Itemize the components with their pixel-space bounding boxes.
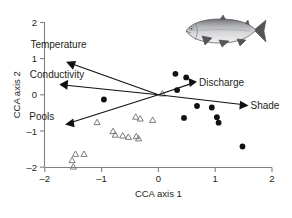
data-point-circle bbox=[240, 144, 246, 150]
vector-conductivity-arrowhead bbox=[59, 80, 68, 90]
data-point-triangle bbox=[112, 132, 118, 137]
vector-discharge-line bbox=[158, 83, 192, 95]
data-point-triangle bbox=[120, 133, 126, 138]
data-point-triangle bbox=[69, 157, 75, 162]
vector-label-conductivity: Conductivity bbox=[30, 69, 84, 80]
vector-label-pools: Pools bbox=[29, 111, 54, 122]
data-point-triangle bbox=[94, 119, 100, 124]
cca-ordination-figure: 2 1 0 –1 –2 –2 –1 0 1 2 CCA axis 1 CCA a… bbox=[0, 0, 292, 218]
x-tick-label-neg2: –2 bbox=[40, 173, 51, 184]
x-tick-label-0: 0 bbox=[156, 173, 161, 184]
vector-shade bbox=[158, 95, 248, 110]
x-tick-label-1: 1 bbox=[213, 173, 218, 184]
data-point-circle bbox=[181, 115, 187, 121]
plot-canvas: 2 1 0 –1 –2 –2 –1 0 1 2 CCA axis 1 CCA a… bbox=[0, 0, 292, 218]
y-tick-label-0: 0 bbox=[32, 89, 37, 100]
vector-label-discharge: Discharge bbox=[199, 77, 244, 88]
trout-illustration bbox=[186, 15, 266, 47]
y-tick-label-neg1: –1 bbox=[26, 126, 37, 137]
data-point-circle bbox=[216, 120, 222, 126]
data-point-circle bbox=[214, 114, 220, 120]
y-tick-label-2: 2 bbox=[32, 17, 37, 28]
vector-pools-line bbox=[69, 95, 158, 123]
x-axis-ticks bbox=[45, 168, 272, 173]
data-point-triangle bbox=[125, 134, 131, 139]
vector-shade-line bbox=[158, 95, 244, 105]
data-point-circle bbox=[194, 103, 200, 109]
y-axis-title: CCA axis 2 bbox=[11, 71, 22, 118]
y-tick-label-1: 1 bbox=[32, 53, 37, 64]
vector-pools bbox=[65, 95, 158, 128]
data-point-circle bbox=[173, 71, 179, 77]
vector-label-shade: Shade bbox=[251, 100, 280, 111]
vector-shade-arrowhead bbox=[239, 101, 248, 110]
x-axis-tick-labels: –2 –1 0 1 2 bbox=[40, 173, 275, 184]
data-point-triangle bbox=[150, 117, 156, 122]
data-point-circle bbox=[209, 105, 215, 111]
y-tick-label-neg2: –2 bbox=[26, 162, 37, 173]
data-point-circle bbox=[101, 97, 107, 103]
open-triangle-series bbox=[69, 91, 166, 170]
vector-discharge-arrowhead bbox=[189, 78, 198, 87]
data-point-triangle bbox=[81, 151, 87, 156]
x-tick-label-neg1: –1 bbox=[96, 173, 107, 184]
data-point-triangle bbox=[72, 151, 78, 156]
data-point-circle bbox=[183, 75, 189, 81]
data-point-triangle bbox=[133, 114, 139, 119]
vector-label-temperature: Temperature bbox=[30, 39, 87, 50]
x-tick-label-2: 2 bbox=[269, 173, 274, 184]
data-point-triangle bbox=[70, 164, 76, 169]
x-axis-title: CCA axis 1 bbox=[135, 188, 182, 199]
vector-pools-arrowhead bbox=[65, 119, 75, 128]
vector-arrows bbox=[59, 61, 248, 127]
vector-conductivity bbox=[59, 80, 158, 95]
